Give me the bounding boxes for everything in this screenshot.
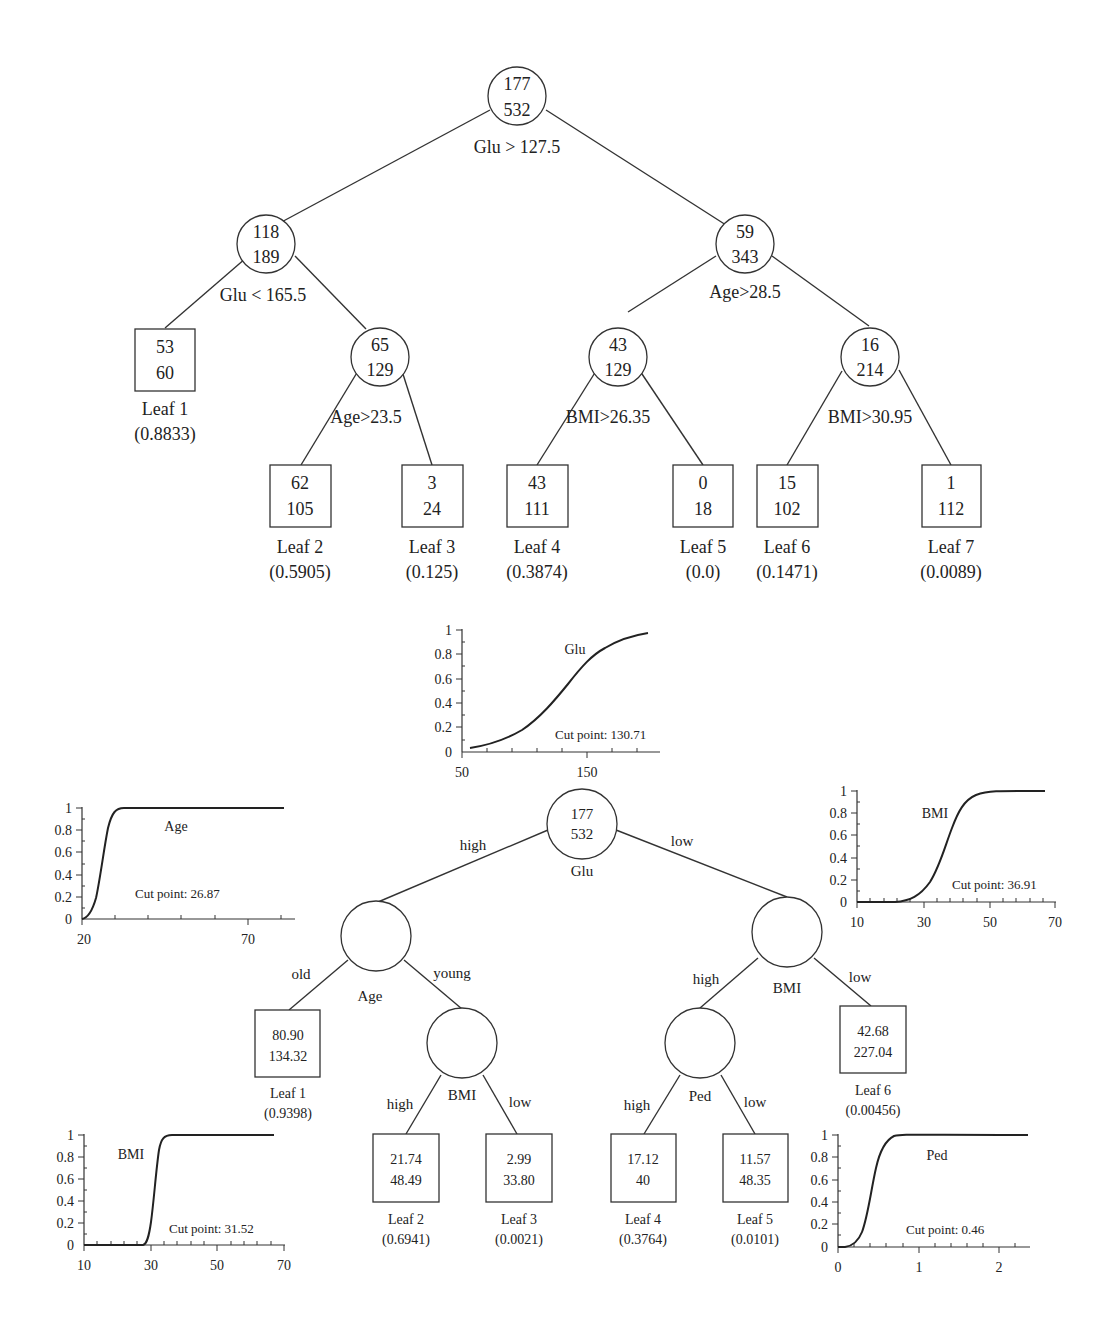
edge-label-low: low bbox=[671, 833, 694, 849]
ytick: 0.4 bbox=[55, 868, 73, 883]
xtick: 30 bbox=[144, 1258, 158, 1273]
leaf-total: 111 bbox=[524, 499, 550, 519]
edge-label-high: high bbox=[693, 971, 720, 987]
leaf-pos: 0 bbox=[699, 473, 708, 493]
ped-membership-plot: 1 0.8 0.6 0.4 0.2 0 0 1 2 Ped Cut point:… bbox=[811, 1128, 1031, 1275]
leaf-label: Leaf 4 bbox=[625, 1212, 661, 1227]
leaf-pos: 43 bbox=[528, 473, 546, 493]
xtick: 70 bbox=[241, 932, 255, 947]
edge-label-low: low bbox=[744, 1094, 767, 1110]
xtick: 150 bbox=[577, 765, 598, 780]
xtick: 50 bbox=[455, 765, 469, 780]
ytick: 0.4 bbox=[811, 1195, 829, 1210]
leaf-prob: (0.0021) bbox=[495, 1232, 543, 1248]
leaf-4: 43 111 Leaf 4 (0.3874) bbox=[506, 465, 568, 583]
node-right-right-pos: 16 bbox=[861, 335, 879, 355]
leaf-b: 134.32 bbox=[269, 1049, 308, 1064]
fuzzy-root-var: Glu bbox=[571, 863, 594, 879]
leaf-a: 21.74 bbox=[390, 1152, 422, 1167]
glu-membership-plot: 1 0.8 0.6 0.4 0.2 0 50 150 Glu Cut point… bbox=[435, 623, 661, 780]
leaf-prob: (0.3764) bbox=[619, 1232, 667, 1248]
edge bbox=[276, 110, 490, 225]
leaf-pos: 62 bbox=[291, 473, 309, 493]
leaf-label: Leaf 5 bbox=[680, 537, 726, 557]
fuzzy-bmi-right-node bbox=[752, 897, 822, 967]
leaf-1: 53 60 Leaf 1 (0.8833) bbox=[134, 329, 196, 445]
ytick: 0 bbox=[65, 912, 72, 927]
leaf-3: 3 24 Leaf 3 (0.125) bbox=[402, 465, 463, 583]
leaf-pos: 1 bbox=[947, 473, 956, 493]
leaf-total: 24 bbox=[423, 499, 441, 519]
leaf-prob: (0.0101) bbox=[731, 1232, 779, 1248]
edge bbox=[772, 256, 869, 326]
ytick: 0.6 bbox=[830, 828, 848, 843]
leaf-prob: (0.0089) bbox=[920, 562, 982, 583]
leaf-label: Leaf 6 bbox=[764, 537, 810, 557]
leaf-label: Leaf 1 bbox=[270, 1086, 306, 1101]
leaf-label: Leaf 2 bbox=[277, 537, 323, 557]
ytick: 0.8 bbox=[435, 647, 453, 662]
xtick: 20 bbox=[77, 932, 91, 947]
node-right-left-pos: 43 bbox=[609, 335, 627, 355]
leaf-prob: (0.0) bbox=[686, 562, 721, 583]
leaf-pos: 3 bbox=[428, 473, 437, 493]
leaf-pos: 53 bbox=[156, 337, 174, 357]
leaf-b: 48.49 bbox=[390, 1173, 422, 1188]
fuzzy-bmi-left-var: BMI bbox=[448, 1087, 476, 1103]
ytick: 1 bbox=[67, 1128, 74, 1143]
edge-label-young: young bbox=[433, 965, 471, 981]
fuzzy-age-node bbox=[341, 901, 411, 971]
ytick: 0.8 bbox=[811, 1150, 829, 1165]
fuzzy-root-node bbox=[547, 789, 617, 859]
fuzzy-leaf-2: 21.74 48.49 Leaf 2 (0.6941) bbox=[373, 1134, 439, 1248]
leaf-label: Leaf 4 bbox=[514, 537, 560, 557]
ytick: 0.6 bbox=[55, 845, 73, 860]
leaf-prob: (0.1471) bbox=[756, 562, 818, 583]
fuzzy-root-pos: 177 bbox=[571, 806, 594, 822]
node-right-right-split: BMI>30.95 bbox=[828, 407, 913, 427]
crisp-tree: 177 532 Glu > 127.5 118 189 Glu < 165.5 … bbox=[134, 67, 982, 583]
leaf-total: 105 bbox=[287, 499, 314, 519]
edge-label-high: high bbox=[460, 837, 487, 853]
leaf-7: 1 112 Leaf 7 (0.0089) bbox=[920, 465, 982, 583]
ytick: 0.2 bbox=[55, 890, 73, 905]
xtick: 70 bbox=[277, 1258, 291, 1273]
xtick: 10 bbox=[77, 1258, 91, 1273]
figure: 177 532 Glu > 127.5 118 189 Glu < 165.5 … bbox=[0, 0, 1109, 1321]
bmi-right-membership-plot: 1 0.8 0.6 0.4 0.2 0 10 30 50 70 BMI Cut … bbox=[830, 784, 1063, 930]
node-right-right-total: 214 bbox=[857, 360, 884, 380]
node-left-total: 189 bbox=[253, 247, 280, 267]
ytick: 0.6 bbox=[435, 672, 453, 687]
fuzzy-leaf-6: 42.68 227.04 Leaf 6 (0.00456) bbox=[840, 1006, 906, 1119]
leaf-b: 48.35 bbox=[739, 1173, 771, 1188]
plot-var-name: Glu bbox=[565, 642, 586, 657]
ytick: 0.8 bbox=[55, 823, 73, 838]
leaf-a: 17.12 bbox=[627, 1152, 659, 1167]
fuzzy-age-var: Age bbox=[358, 988, 383, 1004]
fuzzy-root-total: 532 bbox=[571, 826, 594, 842]
xtick: 50 bbox=[210, 1258, 224, 1273]
leaf-prob: (0.00456) bbox=[846, 1103, 901, 1119]
leaf-a: 11.57 bbox=[740, 1152, 771, 1167]
leaf-prob: (0.125) bbox=[406, 562, 459, 583]
bmi-left-membership-plot: 1 0.8 0.6 0.4 0.2 0 10 30 50 70 BMI Cut … bbox=[57, 1128, 292, 1273]
node-left-right-total: 129 bbox=[367, 360, 394, 380]
node-right-split: Age>28.5 bbox=[709, 282, 781, 302]
leaf-label: Leaf 3 bbox=[409, 537, 455, 557]
fuzzy-leaf-4: 17.12 40 Leaf 4 (0.3764) bbox=[611, 1134, 676, 1248]
root-total: 532 bbox=[504, 100, 531, 120]
leaf-b: 40 bbox=[636, 1173, 650, 1188]
fuzzy-leaf-1: 80.90 134.32 Leaf 1 (0.9398) bbox=[255, 1010, 320, 1122]
leaf-total: 102 bbox=[774, 499, 801, 519]
leaf-5: 0 18 Leaf 5 (0.0) bbox=[673, 465, 733, 583]
leaf-b: 227.04 bbox=[854, 1045, 893, 1060]
leaf-total: 18 bbox=[694, 499, 712, 519]
edge bbox=[628, 256, 716, 312]
leaf-a: 42.68 bbox=[857, 1024, 889, 1039]
edge bbox=[616, 830, 787, 897]
leaf-prob: (0.3874) bbox=[506, 562, 568, 583]
plot-var-name: BMI bbox=[118, 1147, 145, 1162]
xtick: 0 bbox=[835, 1260, 842, 1275]
leaf-a: 80.90 bbox=[272, 1028, 304, 1043]
leaf-label: Leaf 5 bbox=[737, 1212, 773, 1227]
